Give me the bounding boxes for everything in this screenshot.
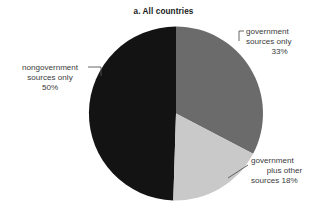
slice-label-percent: 33% [246, 47, 313, 57]
slice-label-percent: 50% [42, 83, 58, 92]
slice-label-line-1: government [251, 156, 294, 165]
pie-chart-figure: a. All countries government sources only… [0, 0, 327, 213]
slice-label-line-2: sources only [27, 73, 72, 82]
slice-label-percent: sources 18% [251, 176, 318, 186]
slice-label-nongovernment-sources-only: nongovernment sources only 50% [12, 63, 88, 94]
slice-label-line-1: nongovernment [22, 63, 78, 72]
slice-label-government-plus-other-sources: government plus other sources 18% [251, 156, 318, 187]
slice-label-line-1: government [246, 27, 289, 36]
slice-label-line-2: sources only [246, 37, 291, 46]
pie-slice-nongovernment-sources-only [89, 26, 176, 200]
slice-label-line-2: plus other [251, 166, 318, 176]
slice-label-government-sources-only: government sources only 33% [246, 27, 313, 58]
